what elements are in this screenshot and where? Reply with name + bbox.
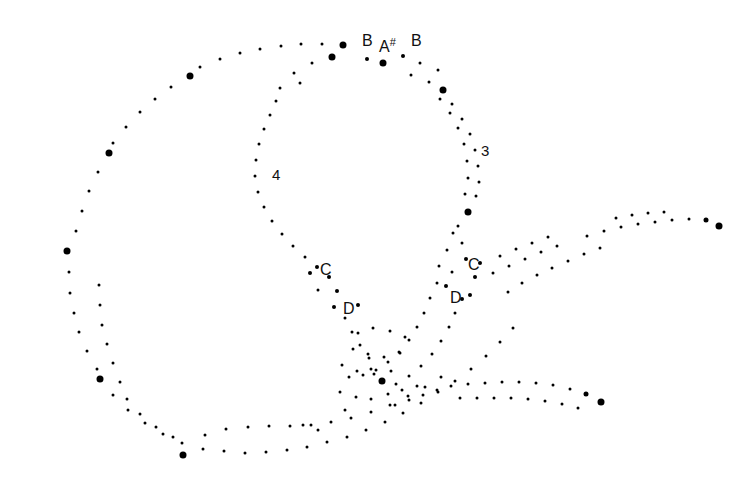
- data-point: [326, 441, 329, 444]
- data-point: [239, 52, 242, 55]
- data-point: [259, 48, 262, 51]
- data-point: [461, 118, 464, 121]
- data-point: [144, 422, 147, 425]
- data-point: [302, 424, 305, 427]
- data-point: [465, 209, 472, 216]
- data-point: [561, 403, 564, 406]
- data-point: [125, 126, 128, 129]
- note-letter: A: [379, 38, 390, 55]
- data-point: [527, 398, 530, 401]
- data-point: [263, 128, 266, 131]
- data-point: [289, 425, 292, 428]
- data-point: [292, 245, 295, 248]
- data-point: [356, 370, 359, 373]
- data-point: [390, 370, 393, 373]
- data-point: [263, 206, 266, 209]
- data-point: [306, 446, 309, 449]
- data-point: [300, 43, 303, 46]
- data-point: [170, 86, 173, 89]
- data-point: [449, 112, 452, 115]
- data-point: [384, 421, 387, 424]
- dot-series-lower-right-tail: [387, 381, 605, 410]
- data-point: [346, 436, 349, 439]
- data-point: [112, 142, 115, 145]
- data-point: [492, 272, 495, 275]
- data-point: [404, 336, 407, 339]
- data-point: [139, 111, 142, 114]
- data-point: [97, 376, 104, 383]
- dot-series-upper-right-tail: [492, 211, 723, 294]
- data-point: [408, 339, 411, 342]
- data-point: [451, 271, 454, 274]
- dot-series-outer-loop-inner-band: [98, 284, 443, 439]
- data-point: [154, 98, 157, 101]
- data-point: [359, 344, 362, 347]
- data-point: [499, 341, 502, 344]
- note-letter: B: [362, 32, 373, 49]
- data-point: [451, 103, 454, 106]
- data-point: [269, 114, 272, 117]
- data-point: [387, 393, 390, 396]
- data-point: [304, 256, 307, 259]
- figure-container: BA#BCDCD43: [0, 0, 752, 495]
- data-point: [387, 361, 390, 364]
- data-point: [332, 305, 336, 309]
- data-point: [521, 282, 524, 285]
- data-point: [439, 98, 442, 101]
- data-point: [452, 232, 455, 235]
- data-point: [341, 364, 344, 367]
- data-point: [583, 253, 586, 256]
- data-point: [408, 399, 411, 402]
- data-point: [485, 355, 488, 358]
- data-point: [279, 87, 282, 90]
- data-point: [383, 356, 386, 359]
- data-point: [440, 376, 443, 379]
- data-point: [372, 327, 375, 330]
- data-point: [431, 353, 434, 356]
- data-point: [448, 326, 451, 329]
- data-point: [459, 397, 462, 400]
- data-point: [75, 230, 78, 233]
- data-point: [365, 429, 368, 432]
- data-point: [402, 412, 405, 415]
- data-point: [356, 303, 360, 307]
- dot-layer: [64, 42, 723, 459]
- data-point: [127, 409, 130, 412]
- data-point: [244, 452, 247, 455]
- data-point: [477, 165, 480, 168]
- data-point: [599, 247, 602, 250]
- data-point: [172, 436, 175, 439]
- data-point: [275, 100, 278, 103]
- data-point: [299, 82, 302, 85]
- data-point: [512, 327, 515, 330]
- data-point: [473, 275, 477, 279]
- note-letter: D: [450, 289, 462, 306]
- data-point: [518, 381, 521, 384]
- data-point: [68, 271, 71, 274]
- data-point: [73, 312, 76, 315]
- data-point: [544, 400, 547, 403]
- data-point: [446, 249, 449, 252]
- data-point: [401, 389, 404, 392]
- data-point: [119, 381, 122, 384]
- data-point: [181, 442, 184, 445]
- note-letter: B: [411, 32, 422, 49]
- dot-series-crossing-scatter: [302, 327, 407, 432]
- data-point: [440, 87, 447, 94]
- data-point: [315, 265, 319, 269]
- data-point: [348, 376, 351, 379]
- data-point: [106, 150, 113, 157]
- dot-series-inner-loop-right-arc: [365, 54, 482, 386]
- data-point: [362, 374, 365, 377]
- data-point: [355, 396, 358, 399]
- data-point: [247, 426, 250, 429]
- data-point: [202, 448, 205, 451]
- data-point: [379, 378, 386, 385]
- data-point: [180, 452, 187, 459]
- data-point: [598, 399, 605, 406]
- data-point: [647, 212, 650, 215]
- data-point: [429, 297, 432, 300]
- data-point: [416, 326, 419, 329]
- data-point: [407, 395, 410, 398]
- data-point: [162, 433, 165, 436]
